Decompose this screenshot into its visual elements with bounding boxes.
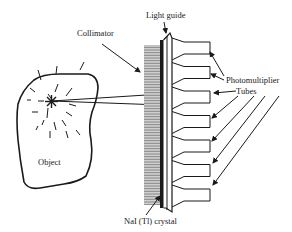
- label-light-guide: Light guide: [146, 10, 186, 20]
- photomultiplier-tube: [172, 87, 210, 109]
- photomultiplier-tube: [172, 38, 210, 60]
- photomultiplier-tube: [172, 63, 210, 85]
- collimator: [144, 45, 160, 205]
- photomultiplier-tube: [172, 112, 210, 134]
- light-guide: [164, 33, 173, 212]
- photomultiplier-tube: [172, 136, 210, 158]
- photomultiplier-tube: [172, 161, 210, 183]
- label-tubes: Tubes: [236, 86, 256, 96]
- photomultiplier-tube: [172, 185, 210, 207]
- annotation-arrows: [102, 22, 279, 215]
- gamma-camera-diagram: Collimator Light guide Photomultiplier T…: [0, 0, 292, 232]
- label-collimator: Collimator: [77, 28, 114, 38]
- object-outline: [17, 74, 98, 188]
- label-photomultiplier: Photomultiplier: [226, 75, 280, 85]
- photomultiplier-tubes: [172, 38, 210, 207]
- label-object: Object: [38, 157, 61, 167]
- label-crystal: NaI (Tl) crystal: [124, 216, 178, 226]
- nai-crystal: [160, 40, 164, 208]
